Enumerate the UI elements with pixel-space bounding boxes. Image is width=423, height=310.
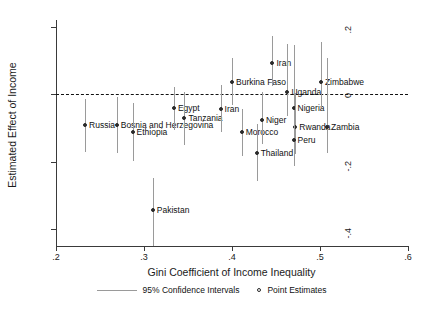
data-point[interactable] <box>115 123 119 127</box>
legend-label-points: Point Estimates <box>267 285 326 295</box>
x-axis-title: Gini Coefficient of Income Inequality <box>0 266 423 278</box>
data-point[interactable] <box>131 130 135 134</box>
y-axis-line <box>56 20 57 246</box>
legend-item-ci: 95% Confidence Intervals <box>97 285 240 295</box>
x-tick-label: .2 <box>52 252 60 262</box>
x-tick <box>408 246 409 251</box>
y-tick <box>51 162 56 163</box>
data-point[interactable] <box>319 80 323 84</box>
legend-item-points: Point Estimates <box>257 285 326 295</box>
x-tick <box>56 246 57 251</box>
x-tick <box>144 246 145 251</box>
data-point-label: Peru <box>298 136 316 145</box>
x-tick-label: .3 <box>140 252 148 262</box>
y-axis-title-text: Estimated Effect of Income <box>6 62 18 187</box>
data-point[interactable] <box>240 130 244 134</box>
legend-label-ci: 95% Confidence Intervals <box>143 285 240 295</box>
data-point[interactable] <box>270 61 274 65</box>
data-point[interactable] <box>230 80 234 84</box>
data-point[interactable] <box>260 118 264 122</box>
data-point-label: Zimbabwe <box>325 78 364 87</box>
confidence-interval-bar <box>287 44 288 116</box>
data-point[interactable] <box>83 123 87 127</box>
y-tick-label: -.2 <box>343 161 353 172</box>
data-point[interactable] <box>255 151 259 155</box>
x-axis-title-text: Gini Coefficient of Income Inequality <box>108 266 316 278</box>
y-tick <box>51 229 56 230</box>
data-point-label: Tanzania <box>188 114 222 123</box>
data-point-label: Burkina Faso <box>236 78 286 87</box>
chart-legend: 95% Confidence Intervals Point Estimates <box>0 285 423 295</box>
data-point-label: Zambia <box>331 123 359 132</box>
data-point-label: Pakistan <box>157 206 190 215</box>
data-point[interactable] <box>172 106 176 110</box>
x-tick-label: .6 <box>404 252 412 262</box>
chart-container: Estimated Effect of Income .20-.2-.4 .2.… <box>0 0 423 310</box>
confidence-interval-bar <box>295 93 296 154</box>
y-tick <box>51 94 56 95</box>
confidence-interval-bar <box>153 178 154 245</box>
y-axis-title: Estimated Effect of Income <box>2 0 22 250</box>
data-point-label: Thailand <box>261 149 294 158</box>
confidence-interval-bar <box>321 42 322 108</box>
data-point-label: Iran <box>225 105 240 114</box>
legend-line-icon <box>97 290 137 291</box>
data-point-label: Niger <box>266 116 286 125</box>
y-tick-label: -.4 <box>343 228 353 239</box>
legend-circle-icon <box>257 288 261 292</box>
y-tick-label: .2 <box>343 26 353 34</box>
y-tick-label: 0 <box>343 93 353 98</box>
data-point[interactable] <box>219 107 223 111</box>
x-tick <box>320 246 321 251</box>
x-tick <box>232 246 233 251</box>
data-point[interactable] <box>151 208 155 212</box>
data-point-label: Russia <box>89 121 115 130</box>
data-point-label: Egypt <box>178 104 200 113</box>
plot-area: .20-.2-.4 .2.3.4.5.6 RussiaBosnia and He… <box>56 20 408 246</box>
data-point[interactable] <box>325 125 329 129</box>
confidence-interval-bar <box>327 58 328 153</box>
data-point-label: Ethiopia <box>137 128 168 137</box>
y-tick <box>51 27 56 28</box>
x-tick-label: .4 <box>228 252 236 262</box>
x-tick-label: .5 <box>316 252 324 262</box>
data-point-label: Iran <box>276 59 291 68</box>
